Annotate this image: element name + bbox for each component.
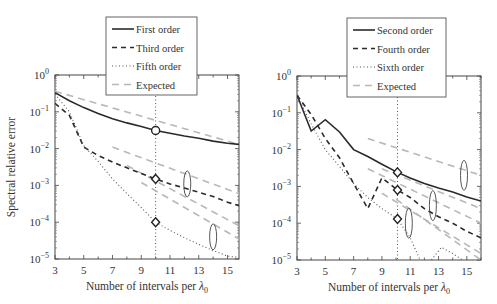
y-tick-label: 10−1 xyxy=(271,105,291,119)
x-axis-label-text: Number of intervals per xyxy=(328,281,441,294)
legend-label: Fifth order xyxy=(136,61,182,72)
y-tick-exp: −1 xyxy=(40,104,49,113)
y-tick-label: 10−5 xyxy=(271,252,291,266)
x-tick-label: 11 xyxy=(405,265,416,277)
y-tick-exp: −2 xyxy=(282,142,291,151)
y-tick-exp: −1 xyxy=(282,105,291,114)
y-tick-base: 10 xyxy=(29,216,41,228)
legend-label: First order xyxy=(136,24,181,35)
legend-label: Third order xyxy=(136,43,185,54)
y-tick-label: 10−1 xyxy=(29,104,49,118)
y-tick-base: 10 xyxy=(29,106,41,118)
lambda-subscript: 0 xyxy=(204,286,208,295)
legend-label: Sixth order xyxy=(377,62,424,73)
x-tick-label: 13 xyxy=(193,264,205,276)
y-tick-exp: −4 xyxy=(282,215,291,224)
x-tick-label: 13 xyxy=(433,265,445,277)
x-tick-label: 15 xyxy=(222,264,234,276)
y-tick-label: 10−4 xyxy=(271,215,291,229)
x-tick-label: 3 xyxy=(52,264,58,276)
y-tick-exp: −2 xyxy=(40,141,49,150)
y-tick-base: 10 xyxy=(34,69,46,81)
x-tick-label: 5 xyxy=(81,264,87,276)
y-tick-base: 10 xyxy=(271,254,283,266)
x-tick-label: 9 xyxy=(379,265,385,277)
x-tick-label: 7 xyxy=(110,264,116,276)
y-tick-label: 10−3 xyxy=(29,177,49,191)
x-tick-label: 11 xyxy=(165,264,176,276)
y-tick-base: 10 xyxy=(271,180,283,192)
x-axis-label: Number of intervals per λ0 xyxy=(86,280,208,295)
y-tick-label: 10−5 xyxy=(29,251,49,265)
left-plot: 10010−110−210−310−410−53579111315Number … xyxy=(5,17,239,295)
legend-label: Second order xyxy=(377,25,433,36)
x-tick-label: 9 xyxy=(139,264,145,276)
x-axis-label: Number of intervals per λ0 xyxy=(328,281,450,296)
y-tick-exp: 0 xyxy=(45,67,49,76)
y-tick-base: 10 xyxy=(29,253,41,265)
y-tick-exp: −3 xyxy=(40,177,49,186)
y-tick-exp: −3 xyxy=(282,178,291,187)
y-tick-base: 10 xyxy=(271,217,283,229)
x-tick-label: 3 xyxy=(294,265,300,277)
plot-frame xyxy=(55,75,239,259)
x-axis-label-text: Number of intervals per xyxy=(86,280,199,293)
y-axis-label: Spectral relative error xyxy=(5,117,18,217)
lambda-subscript: 0 xyxy=(446,287,450,296)
y-tick-base: 10 xyxy=(271,107,283,119)
y-tick-exp: −5 xyxy=(40,251,49,260)
y-tick-label: 10−2 xyxy=(29,141,49,155)
y-tick-label: 100 xyxy=(276,68,291,82)
legend-label: Expected xyxy=(136,80,176,91)
y-tick-exp: −4 xyxy=(40,214,49,223)
y-tick-label: 100 xyxy=(34,67,49,81)
y-tick-label: 10−3 xyxy=(271,178,291,192)
y-tick-base: 10 xyxy=(276,70,288,82)
y-tick-base: 10 xyxy=(271,144,283,156)
chart-figure: 10010−110−210−310−410−53579111315Number … xyxy=(0,0,497,304)
y-tick-base: 10 xyxy=(29,143,41,155)
y-tick-exp: 0 xyxy=(287,68,291,77)
x-tick-label: 15 xyxy=(461,265,473,277)
y-tick-exp: −5 xyxy=(282,252,291,261)
y-tick-label: 10−4 xyxy=(29,214,49,228)
circle-marker xyxy=(152,127,160,135)
x-tick-label: 7 xyxy=(351,265,357,277)
y-tick-base: 10 xyxy=(29,179,41,191)
right-plot: 10010−110−210−310−410−53579111315Number … xyxy=(271,18,481,296)
y-tick-label: 10−2 xyxy=(271,142,291,156)
x-tick-label: 5 xyxy=(323,265,329,277)
legend-label: Fourth order xyxy=(377,44,430,55)
legend-label: Expected xyxy=(377,81,417,92)
